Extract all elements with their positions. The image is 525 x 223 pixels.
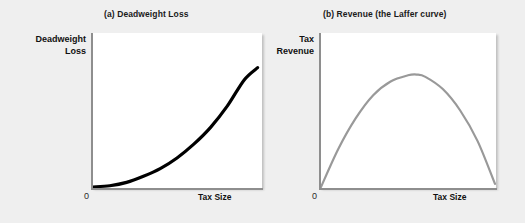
panel-b-origin-label: 0 — [312, 191, 317, 201]
economics-figure: (a) Deadweight Loss Deadweight Loss 0 Ta… — [0, 0, 525, 223]
panel-b-y-axis-label: Tax Revenue — [238, 34, 314, 57]
panel-a-x-axis-label: Tax Size — [198, 192, 231, 202]
panel-a-x-axis — [91, 188, 263, 190]
panel-a-y-axis-label-line1: Deadweight — [12, 34, 86, 46]
panel-a-y-axis-label-line2: Loss — [12, 46, 86, 58]
panel-a-title: (a) Deadweight Loss — [104, 9, 189, 19]
laffer-curve — [320, 33, 496, 188]
panel-a-origin-label: 0 — [84, 191, 89, 201]
panel-b-y-axis-label-line2: Revenue — [238, 46, 314, 58]
panel-laffer-curve: (b) Revenue (the Laffer curve) Tax Reven… — [270, 0, 525, 223]
panel-b-y-axis — [319, 33, 321, 189]
panel-b-x-axis-label: Tax Size — [433, 192, 466, 202]
panel-b-title: (b) Revenue (the Laffer curve) — [323, 9, 446, 19]
panel-b-x-axis — [319, 188, 497, 190]
panel-b-y-axis-label-line1: Tax — [238, 34, 314, 46]
panel-a-y-axis — [91, 33, 93, 189]
deadweight-loss-curve — [92, 33, 262, 188]
panel-deadweight-loss: (a) Deadweight Loss Deadweight Loss 0 Ta… — [0, 0, 270, 223]
panel-a-y-axis-label: Deadweight Loss — [12, 34, 86, 57]
